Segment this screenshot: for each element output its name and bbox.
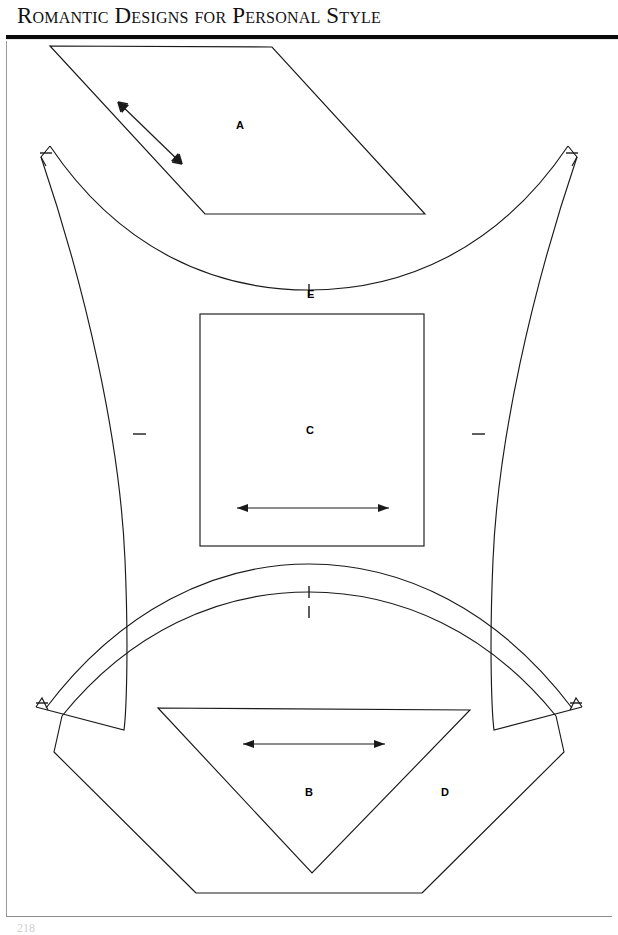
pattern-page: Romantic Designs for Personal Style [0,0,618,935]
grainline-arrow-c [237,504,389,512]
piece-e-outline [36,146,582,730]
piece-label-e: E [307,288,315,300]
page-title: Romantic Designs for Personal Style [17,3,381,29]
piece-label-d: D [441,786,449,798]
piece-label-a: A [236,119,244,131]
piece-b-outline [158,708,470,873]
piece-label-b: B [305,786,313,798]
page-header: Romantic Designs for Personal Style [0,0,618,40]
page-number: 218 [17,921,35,935]
piece-label-c: C [306,424,314,436]
grainline-arrow-b [243,740,385,748]
piece-d-outline [54,592,564,893]
